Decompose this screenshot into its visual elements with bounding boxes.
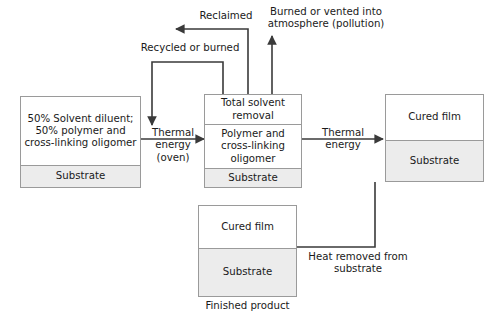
edge-reclaimed [176, 29, 248, 94]
wet-coating-substrate: Substrate [21, 165, 140, 187]
finished-product-film: Cured film [199, 206, 296, 248]
solvent-removal-node: Total solvent removal Polymer and cross-… [204, 94, 302, 188]
solvent-removal-polymer: Polymer and cross-linking oligomer [205, 124, 301, 168]
edge-label-thermal-energy-oven: Thermal energy (oven) [140, 127, 206, 164]
finished-product-node: Cured film Substrate [198, 205, 297, 297]
process-flow-diagram: 50% Solvent diluent; 50% polymer and cro… [0, 0, 496, 321]
cured-film-hot-film: Cured film [386, 95, 483, 140]
edge-label-heat-removed: Heat removed from substrate [300, 251, 416, 276]
cured-film-hot-node: Cured film Substrate [385, 94, 484, 182]
edge-label-recycled-or-burned: Recycled or burned [128, 42, 252, 54]
wet-coating-node: 50% Solvent diluent; 50% polymer and cro… [20, 96, 141, 188]
edge-label-burned-or-vented: Burned or vented into atmosphere (pollut… [256, 6, 396, 31]
solvent-removal-header: Total solvent removal [205, 95, 301, 124]
edge-label-thermal-energy: Thermal energy [308, 127, 378, 152]
finished-product-caption: Finished product [198, 300, 297, 311]
solvent-removal-substrate: Substrate [205, 168, 301, 187]
wet-coating-composition: 50% Solvent diluent; 50% polymer and cro… [21, 97, 140, 165]
cured-film-hot-substrate: Substrate [386, 140, 483, 181]
finished-product-substrate: Substrate [199, 248, 296, 296]
